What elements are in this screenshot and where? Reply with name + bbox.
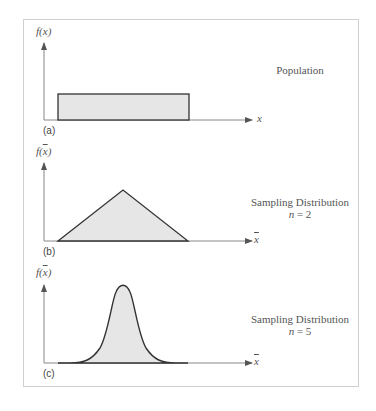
bell-distribution-shape <box>58 285 188 363</box>
panel-a-y-label: f(x) <box>36 25 51 37</box>
caption-text: Sampling Distribution <box>251 196 349 208</box>
uniform-distribution-shape <box>58 94 189 120</box>
var-symbol: x <box>43 25 48 37</box>
panel-a-tag: (a) <box>43 125 55 136</box>
caption-text: Population <box>276 64 324 76</box>
var-symbol: x <box>43 266 48 278</box>
sample-size-label: n = 5 <box>243 325 357 337</box>
triangular-distribution-shape <box>58 190 188 241</box>
panel-b-y-label: f(x) <box>36 145 51 157</box>
panel-b-tag: (b) <box>43 246 55 257</box>
panel-a-caption: Population <box>245 64 355 76</box>
n-value: = 5 <box>297 325 311 337</box>
panel-c-tag: (c) <box>43 368 55 379</box>
fn-symbol: f <box>36 25 39 37</box>
panel-a-plot <box>44 43 252 120</box>
n-var: n <box>289 208 295 220</box>
n-var: n <box>289 325 295 337</box>
panel-c-caption: Sampling Distribution n = 5 <box>243 313 357 337</box>
caption-text: Sampling Distribution <box>251 313 349 325</box>
fn-symbol: f <box>36 145 39 157</box>
var-symbol: x <box>43 145 48 157</box>
panel-c-plot <box>44 285 252 363</box>
panel-b-plot <box>44 163 252 241</box>
panel-a-x-label: x <box>257 112 262 124</box>
panel-c-x-label: x <box>254 355 259 367</box>
fn-symbol: f <box>36 266 39 278</box>
panel-c-y-label: f(x) <box>36 266 51 278</box>
sample-size-label: n = 2 <box>243 208 357 220</box>
n-value: = 2 <box>297 208 311 220</box>
panel-b-caption: Sampling Distribution n = 2 <box>243 196 357 220</box>
panel-b-x-label: x <box>254 233 259 245</box>
